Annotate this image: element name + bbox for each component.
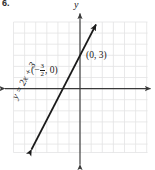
y-axis-label: y — [74, 0, 78, 10]
graph-figure: 6. y (0, 3) (−32, 0) y = 2x + 3 — [0, 0, 155, 170]
exercise-number: 6. — [2, 0, 10, 8]
y-intercept-point-label: (0, 3) — [86, 51, 107, 61]
function-line — [32, 25, 97, 150]
fraction-numerator: 3 — [40, 63, 46, 70]
fraction-denominator: 2 — [40, 70, 46, 78]
x-intercept-close-paren: , 0) — [45, 65, 58, 75]
x-intercept-fraction: 32 — [40, 63, 46, 79]
